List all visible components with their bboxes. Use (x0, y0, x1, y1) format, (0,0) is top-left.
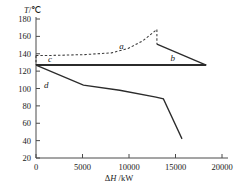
curve-label-a: a (119, 41, 124, 51)
curve-d (36, 65, 182, 139)
x-axis-title: ΔH /kW (105, 173, 133, 183)
curve-label-d: d (44, 80, 49, 90)
x-tick-label: 5000 (74, 162, 91, 172)
x-tick-label: 20000 (211, 162, 232, 172)
x-tick-label: 0 (34, 162, 38, 172)
curve-label-b: b (170, 53, 175, 63)
x-axis-tick-labels: 05000100001500020000 (34, 162, 233, 172)
y-tick-label: 60 (23, 118, 32, 128)
chart-container: 20406080100120140160180 0500010000150002… (0, 0, 238, 192)
y-tick-label: 80 (23, 101, 32, 111)
y-tick-label: 160 (18, 31, 31, 41)
y-axis-title: T/℃ (24, 5, 41, 15)
x-tick-label: 15000 (165, 162, 186, 172)
y-tick-label: 40 (23, 136, 32, 146)
y-tick-label: 120 (18, 66, 31, 76)
chart-plot-svg: 20406080100120140160180 0500010000150002… (0, 0, 238, 192)
y-axis-ticks (36, 19, 40, 158)
curve-a (36, 29, 157, 55)
y-tick-label: 180 (18, 14, 31, 24)
axes-group (36, 17, 228, 158)
y-axis-tick-labels: 20406080100120140160180 (18, 14, 31, 163)
x-tick-label: 10000 (118, 162, 139, 172)
curve-label-c: c (48, 54, 52, 64)
curve-b (157, 44, 206, 65)
x-axis-ticks (36, 154, 222, 158)
y-tick-label: 140 (18, 49, 31, 59)
y-tick-label: 20 (23, 153, 32, 163)
y-tick-label: 100 (18, 84, 31, 94)
